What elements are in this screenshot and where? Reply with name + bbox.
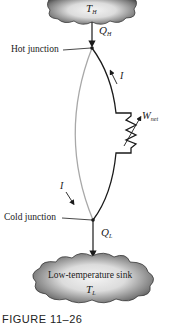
temp-subscript: L: [92, 290, 95, 296]
cold-reservoir-temp-label: TL: [86, 283, 95, 296]
current-arrow-right: [111, 72, 117, 84]
work-label: Wnet: [142, 110, 158, 122]
heat-symbol: Q: [101, 226, 109, 238]
temp-subscript: H: [92, 9, 96, 15]
heat-subscript: L: [109, 233, 112, 239]
heat-in-label: QH: [99, 24, 111, 37]
heat-out-label: QL: [101, 226, 112, 239]
heat-symbol: Q: [99, 24, 107, 36]
work-symbol: W: [142, 110, 151, 121]
current-label-right: I: [120, 70, 123, 81]
heat-subscript: H: [107, 31, 111, 37]
work-subscript: net: [151, 116, 158, 122]
current-label-left: I: [60, 180, 63, 191]
hot-junction-leader: [63, 48, 91, 50]
cold-junction-label: Cold junction: [4, 212, 56, 222]
current-arrow-left: [66, 192, 73, 203]
figure-caption: FIGURE 11–26: [2, 313, 82, 323]
cold-reservoir-label: Low-temperature sink: [48, 270, 132, 280]
cold-junction-leader: [62, 218, 92, 220]
hot-junction-dot: [90, 46, 94, 50]
hot-reservoir-temp-label: TH: [86, 2, 96, 15]
wire-left: [75, 48, 93, 220]
hot-junction-label: Hot junction: [11, 44, 59, 54]
wire-right: [92, 48, 136, 220]
